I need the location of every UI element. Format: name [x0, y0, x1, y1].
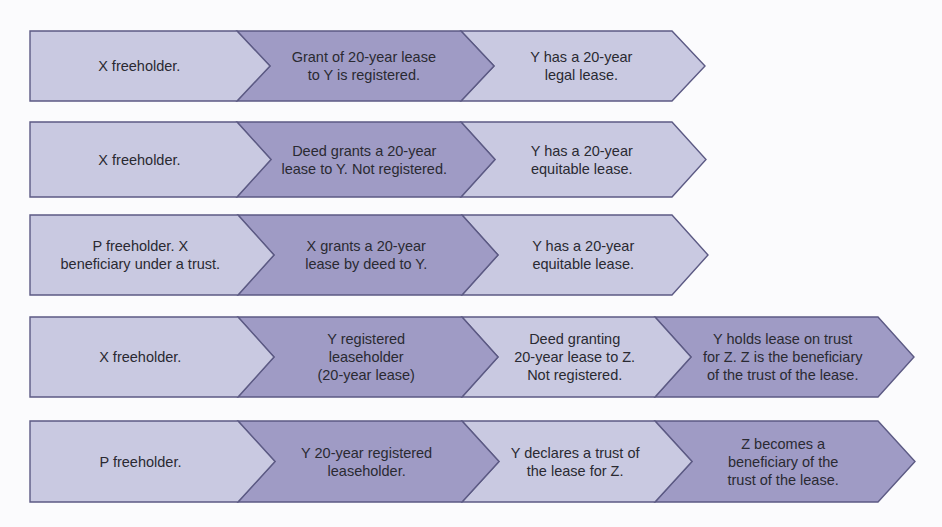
row-1-step-3: Y has a 20-year legal lease. [479, 31, 683, 101]
row-4-step-1: X freeholder. [30, 317, 251, 397]
row-4-step-2: Y registered leaseholder (20-year lease) [258, 317, 475, 397]
flow-row-3: P freeholder. X beneficiary under a trus… [0, 215, 942, 295]
row-5-step-1: P freeholder. [30, 421, 251, 502]
flow-row-1: X freeholder. Grant of 20-year lease to … [0, 31, 942, 101]
flow-row-5: P freeholder. Y 20-year registered lease… [0, 421, 942, 502]
flow-row-2: X freeholder. Deed grants a 20-year leas… [0, 122, 942, 197]
row-5-step-4: Z becomes a beneficiary of the trust of … [675, 421, 891, 502]
row-4-step-3: Deed granting 20-year lease to Z. Not re… [482, 317, 668, 397]
row-1-step-2: Grant of 20-year lease to Y is registere… [255, 31, 472, 101]
flow-row-4: X freeholder. Y registered leaseholder (… [0, 317, 942, 397]
row-3-step-3: Y has a 20-year equitable lease. [482, 215, 685, 295]
row-5-step-3: Y declares a trust of the lease for Z. [482, 421, 668, 502]
row-3-step-1: P freeholder. X beneficiary under a trus… [30, 215, 251, 295]
row-5-step-2: Y 20-year registered leaseholder. [258, 421, 475, 502]
row-3-step-2: X grants a 20-year lease by deed to Y. [258, 215, 475, 295]
row-4-step-4: Y holds lease on trust for Z. Z is the b… [675, 317, 891, 397]
row-2-step-1: X freeholder. [30, 122, 249, 197]
row-2-step-2: Deed grants a 20-year lease to Y. Not re… [256, 122, 473, 197]
row-2-step-3: Y has a 20-year equitable lease. [480, 122, 684, 197]
row-1-step-1: X freeholder. [30, 31, 249, 101]
